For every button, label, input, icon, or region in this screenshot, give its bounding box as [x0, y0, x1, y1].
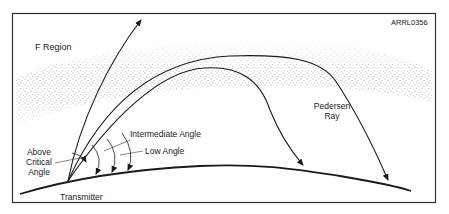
f-region-label: F Region	[35, 42, 72, 52]
propagation-diagram	[0, 0, 449, 214]
above-critical-label: Above Critical Angle	[22, 147, 56, 177]
intermediate-angle-label: Intermediate Angle	[130, 129, 201, 139]
pedersen-ray-label: Pedersen Ray	[307, 101, 357, 121]
low-angle-label: Low Angle	[145, 146, 184, 156]
figure-id-label: ARRL0356	[391, 18, 428, 28]
frame-border	[13, 14, 436, 203]
transmitter-label: Transmitter	[60, 192, 103, 202]
